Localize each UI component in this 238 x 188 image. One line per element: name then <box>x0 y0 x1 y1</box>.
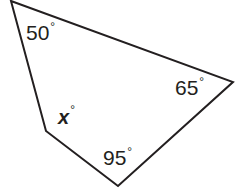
angle-label-95: 95° <box>103 147 131 168</box>
geometry-figure: 50° 65° 95° x° <box>0 0 238 188</box>
angle-label-50: 50° <box>26 22 54 43</box>
degree-symbol-50: ° <box>50 20 55 34</box>
angle-value-95: 95 <box>103 146 126 169</box>
degree-symbol-x: ° <box>70 103 75 117</box>
degree-symbol-65: ° <box>199 75 204 89</box>
angle-value-50: 50 <box>26 21 49 44</box>
angle-value-65: 65 <box>175 76 198 99</box>
degree-symbol-95: ° <box>127 145 132 159</box>
angle-label-65: 65° <box>175 77 203 98</box>
angle-label-x: x° <box>58 106 74 127</box>
angle-variable-x: x <box>58 106 69 128</box>
